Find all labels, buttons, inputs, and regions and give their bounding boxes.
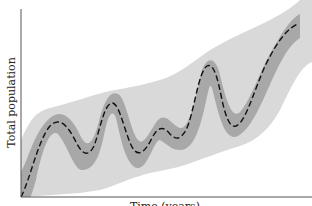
x-axis-label: Time (years) [100, 200, 230, 206]
chart [0, 0, 312, 206]
y-axis-label: Total population [5, 48, 18, 158]
outer-band [21, 0, 312, 197]
